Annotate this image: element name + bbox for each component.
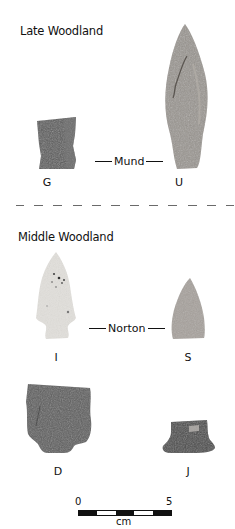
scale-unit-label: cm	[116, 516, 131, 527]
section-title-middle-woodland: Middle Woodland	[18, 230, 114, 244]
artifact-label-u: U	[169, 176, 189, 189]
leader-line-right	[148, 328, 165, 329]
artifact-j-image	[161, 420, 217, 454]
artifact-label-g: G	[37, 176, 57, 189]
type-label-mund: Mund	[95, 155, 163, 168]
type-label-norton-text: Norton	[108, 322, 146, 335]
artifact-i-image	[34, 252, 80, 340]
artifact-g-image	[36, 116, 78, 170]
scale-segment	[153, 511, 171, 515]
scale-segment	[134, 511, 152, 515]
artifact-label-i: I	[46, 351, 66, 364]
scale-segment	[116, 511, 134, 515]
leader-line-left	[89, 328, 106, 329]
leader-line-left	[95, 161, 112, 162]
artifact-label-d: D	[48, 465, 68, 478]
artifact-label-s: S	[178, 351, 198, 364]
scale-segment	[79, 511, 97, 515]
artifact-s-image	[170, 278, 206, 340]
type-label-norton: Norton	[89, 322, 165, 335]
section-title-late-woodland: Late Woodland	[20, 24, 103, 38]
type-label-mund-text: Mund	[114, 155, 144, 168]
artifact-d-image	[26, 384, 94, 454]
artifact-u-image	[163, 24, 211, 170]
scale-segment	[97, 511, 115, 515]
artifact-label-j: J	[178, 465, 198, 478]
section-divider	[16, 205, 234, 207]
leader-line-right	[146, 161, 163, 162]
scale-start-label: 0	[75, 496, 81, 507]
scale-end-label: 5	[166, 496, 172, 507]
